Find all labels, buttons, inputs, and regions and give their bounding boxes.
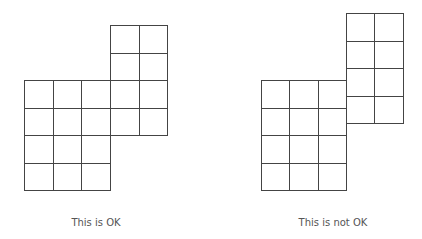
grid-cell — [318, 136, 346, 164]
grid-cell — [347, 69, 375, 97]
grid-cell — [111, 81, 140, 109]
grid-cell — [262, 163, 290, 191]
grid-cell — [290, 81, 318, 109]
grid-cell — [25, 81, 54, 109]
grid-cell — [111, 26, 140, 54]
figure-not-ok — [262, 14, 404, 191]
grid-cell — [262, 81, 290, 109]
grid-cell — [111, 53, 140, 81]
grid-cell — [347, 96, 375, 124]
grid-cell — [262, 108, 290, 136]
grid-cell — [318, 163, 346, 191]
figure-ok — [25, 26, 168, 191]
grid-cell — [53, 136, 82, 164]
grid-cell — [375, 69, 403, 97]
grid-cell — [139, 81, 168, 109]
grid-cell — [347, 14, 375, 42]
lower-block — [25, 81, 111, 191]
diagram-canvas: This is OK This is not OK — [0, 0, 422, 239]
grid-cell — [25, 163, 54, 191]
upper-block — [347, 14, 404, 124]
grid-cell — [53, 163, 82, 191]
grid-cell — [290, 136, 318, 164]
caption-ok: This is OK — [70, 217, 121, 228]
grid-cell — [375, 96, 403, 124]
grid-cell — [53, 81, 82, 109]
grid-cell — [375, 41, 403, 69]
grid-cell — [25, 108, 54, 136]
grid-cell — [318, 108, 346, 136]
grid-cell — [290, 108, 318, 136]
grid-cell — [262, 136, 290, 164]
grid-cell — [82, 163, 111, 191]
grid-cell — [111, 108, 140, 136]
grid-cell — [318, 81, 346, 109]
upper-block — [111, 26, 168, 136]
lower-block — [262, 81, 347, 191]
grid-cell — [139, 26, 168, 54]
caption-not-ok: This is not OK — [298, 217, 368, 228]
grid-cell — [375, 14, 403, 42]
grid-cell — [139, 108, 168, 136]
grid-cell — [139, 53, 168, 81]
grid-cell — [82, 108, 111, 136]
grid-cell — [82, 136, 111, 164]
grid-cell — [25, 136, 54, 164]
grid-cell — [53, 108, 82, 136]
grid-cell — [290, 163, 318, 191]
grid-cell — [347, 41, 375, 69]
grid-cell — [82, 81, 111, 109]
